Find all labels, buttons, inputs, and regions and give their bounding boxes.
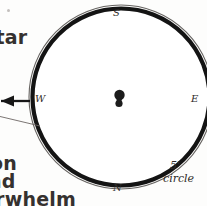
- compass-label-east: E: [191, 93, 199, 104]
- field-scale-word: circle: [163, 173, 194, 186]
- compass-label-west: W: [35, 93, 46, 104]
- compass-label-south: S: [113, 7, 120, 18]
- compass-label-north: N: [113, 182, 122, 193]
- field-scale-annotation: 5' circle: [163, 160, 194, 186]
- figure-page: star - s on nd erwhelm S N W E 5' circle: [0, 0, 207, 206]
- west-arrow-icon: [1, 96, 30, 107]
